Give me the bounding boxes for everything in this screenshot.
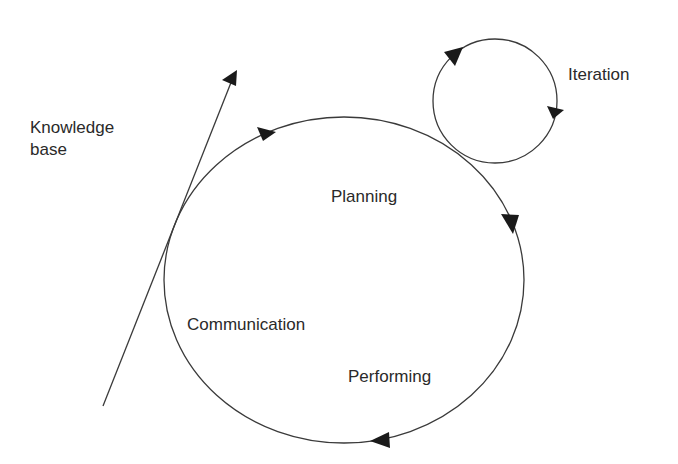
main-cycle-ellipse [164, 117, 524, 443]
knowledge-base-arrowhead [222, 70, 237, 86]
main-cycle-arrowhead-bottom [370, 432, 390, 448]
knowledge-base-label-line2: base [30, 140, 67, 159]
knowledge-base-arrow-line [103, 80, 232, 406]
iteration-label: Iteration [568, 65, 629, 84]
communication-label: Communication [187, 315, 305, 334]
planning-label: Planning [331, 187, 397, 206]
performing-label: Performing [348, 367, 431, 386]
iteration-arrowhead-top [444, 47, 463, 66]
knowledge-base-label-line1: Knowledge [30, 118, 114, 137]
main-cycle-arrowhead-top-left [257, 127, 276, 141]
process-cycle-diagram: Knowledge base Iteration Planning Commun… [0, 0, 678, 464]
